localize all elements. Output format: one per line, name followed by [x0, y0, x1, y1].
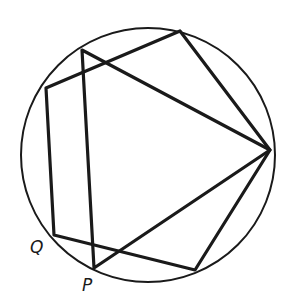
inscribed-triangle [82, 50, 270, 268]
geometry-diagram: Q P [0, 0, 292, 308]
inscribed-pentagon [46, 31, 270, 270]
circumscribed-circle [21, 28, 275, 282]
vertex-label-p: P [82, 275, 93, 295]
vertex-label-q: Q [30, 237, 43, 257]
